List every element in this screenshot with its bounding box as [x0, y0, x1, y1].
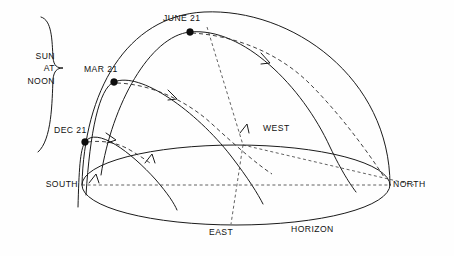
- declination-arc-dec-21: [88, 141, 150, 163]
- arrowhead-sunpath-june: [240, 124, 249, 133]
- label-south: SOUTH: [18, 180, 78, 189]
- arrowhead-sunpath-dec: [89, 174, 99, 183]
- label-dec-21: DEC 21: [54, 126, 87, 135]
- sun-at-noon-line-1: SUN: [0, 50, 55, 62]
- sun-dot-june-21: [187, 29, 194, 36]
- label-horizon: HORIZON: [291, 225, 334, 234]
- sun-path-dec-21: [78, 137, 177, 210]
- arrowhead-sunpath-mar: [145, 154, 155, 163]
- celestial-dome-diagram: SUN AT NOON JUNE 21 MAR 21 DEC 21 WEST N…: [0, 0, 454, 256]
- sun-at-noon-line-2: AT: [0, 62, 55, 74]
- label-east: EAST: [209, 228, 233, 237]
- dome-meridian-arc: [82, 12, 390, 185]
- zenith-east-meridian-line: [207, 27, 243, 224]
- sun-path-june-21: [101, 32, 356, 192]
- sun-at-noon-line-3: NOON: [0, 75, 55, 87]
- label-mar-21: MAR 21: [84, 65, 118, 74]
- declination-arc-mar-21: [117, 83, 272, 174]
- label-june-21: JUNE 21: [163, 14, 201, 23]
- sun-dot-dec-21: [82, 139, 89, 146]
- arrowhead-declination-dec: [106, 133, 116, 143]
- sun-at-noon-label: SUN AT NOON: [0, 50, 55, 87]
- label-north: NORTH: [393, 180, 426, 189]
- sun-path-mar-21: [86, 80, 263, 204]
- label-west: WEST: [263, 124, 290, 133]
- sun-dot-mar-21: [111, 79, 118, 86]
